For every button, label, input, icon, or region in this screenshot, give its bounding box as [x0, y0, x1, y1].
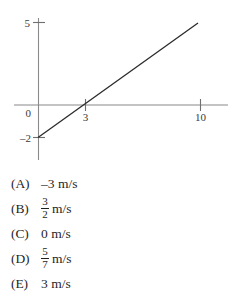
choice-a[interactable]: (A) –3 m/s [0, 171, 235, 196]
choice-a-value: –3 m/s [41, 176, 77, 192]
x-tick-label-3: 3 [83, 111, 89, 123]
choice-d-value: 5 7 m/s [41, 246, 72, 270]
choice-b-value: 3 2 m/s [41, 196, 72, 220]
choice-c[interactable]: (C) 0 m/s [0, 221, 235, 246]
choice-e[interactable]: (E) 3 m/s [0, 271, 235, 296]
choice-e-text: 3 m/s [41, 276, 71, 292]
fraction-numerator: 3 [41, 196, 49, 208]
choice-c-text: 0 m/s [41, 226, 71, 242]
choice-a-text: –3 m/s [41, 176, 77, 192]
graph-figure: 5 –2 0 3 10 [0, 0, 235, 165]
choice-c-value: 0 m/s [41, 226, 71, 242]
choice-a-label: (A) [11, 176, 41, 192]
choice-e-label: (E) [11, 276, 41, 292]
answer-choices: (A) –3 m/s (B) 3 2 m/s (C) 0 m/s (D) 5 7 [0, 171, 235, 296]
plot-line [38, 23, 198, 138]
velocity-graph: 5 –2 0 3 10 [0, 0, 235, 165]
x-tick-label-10: 10 [195, 111, 207, 123]
origin-label: 0 [26, 107, 32, 119]
choice-c-label: (C) [11, 226, 41, 242]
fraction-five-sevenths: 5 7 [41, 246, 49, 270]
fraction-denominator: 7 [41, 259, 49, 271]
fraction-three-halves: 3 2 [41, 196, 49, 220]
y-tick-label-minus2: –2 [19, 132, 31, 144]
choice-b-units: m/s [52, 201, 72, 217]
choice-e-value: 3 m/s [41, 276, 71, 292]
choice-d[interactable]: (D) 5 7 m/s [0, 246, 235, 271]
choice-b[interactable]: (B) 3 2 m/s [0, 196, 235, 221]
y-tick-label-5: 5 [25, 17, 31, 29]
choice-d-label: (D) [11, 251, 41, 267]
fraction-numerator: 5 [41, 246, 49, 258]
fraction-denominator: 2 [41, 209, 49, 221]
choice-b-label: (B) [11, 201, 41, 217]
choice-d-units: m/s [52, 251, 72, 267]
